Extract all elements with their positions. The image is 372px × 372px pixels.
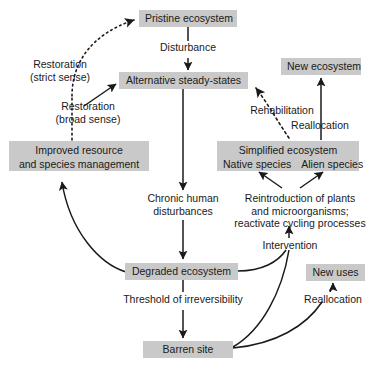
edge-label-restoration-strict: Restoration (strict sense) — [17, 58, 103, 83]
node-new-uses[interactable]: New uses — [306, 264, 365, 281]
node-improved-resource-management[interactable]: Improved resource and species management — [9, 141, 149, 171]
chronic-line2: disturbances — [153, 205, 213, 217]
node-simplified-alien-species: Alien species — [301, 158, 363, 170]
edge-label-restoration-broad: Restoration (broad sense) — [44, 100, 132, 125]
edge-reintroduction-to-native — [259, 172, 282, 188]
edge-degraded-to-improved — [62, 182, 126, 272]
node-alternative-steady-states[interactable]: Alternative steady-states — [119, 72, 248, 89]
diagram-canvas: Pristine ecosystem Alternative steady-st… — [0, 0, 372, 372]
chronic-line1: Chronic human — [147, 192, 218, 204]
reintroduction-line1: Reintroduction of plants — [245, 192, 355, 204]
edge-label-chronic-human-disturbances: Chronic human disturbances — [136, 192, 230, 217]
node-pristine-ecosystem[interactable]: Pristine ecosystem — [139, 10, 237, 27]
node-barren-site[interactable]: Barren site — [143, 341, 233, 358]
edge-label-disturbance: Disturbance — [152, 41, 224, 54]
node-degraded-ecosystem[interactable]: Degraded ecosystem — [125, 263, 238, 280]
edge-label-rehabilitation: Rehabilitation — [240, 104, 324, 117]
edge-reintroduction-to-alien — [300, 172, 323, 188]
reintroduction-line2: and microorganisms; — [251, 205, 348, 217]
restoration-broad-line2: (broad sense) — [56, 113, 121, 125]
restoration-broad-line1: Restoration — [61, 100, 115, 112]
edge-barren-to-reallocation — [233, 302, 322, 348]
edge-label-threshold-of-irreversibility: Threshold of irreversibility — [110, 293, 256, 306]
node-improved-line1: Improved resource — [35, 144, 123, 156]
reintroduction-line3: reactivate cycling processes — [234, 217, 365, 229]
edge-label-reallocation-top: Reallocation — [281, 119, 359, 132]
restoration-strict-line2: (strict sense) — [30, 71, 90, 83]
edge-reallocation-to-new-uses — [330, 283, 333, 292]
node-simplified-native-species: Native species — [223, 158, 291, 170]
edge-label-intervention: Intervention — [252, 239, 328, 252]
edge-degraded-to-intervention — [238, 250, 286, 271]
node-simplified-ecosystem[interactable]: Simplified ecosystem Native speciesAlien… — [217, 141, 359, 171]
node-new-ecosystem[interactable]: New ecosystem — [281, 58, 361, 75]
node-improved-line2: and species management — [15, 157, 143, 171]
edge-label-reintroduction: Reintroduction of plants and microorgani… — [228, 192, 372, 230]
edge-label-reallocation-bottom: Reallocation — [294, 293, 372, 306]
node-simplified-line1: Simplified ecosystem — [239, 144, 338, 156]
diagram-connectors — [0, 0, 372, 372]
restoration-strict-line1: Restoration — [33, 58, 87, 70]
